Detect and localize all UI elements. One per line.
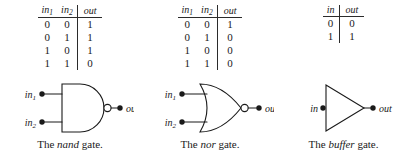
column-header-in: in xyxy=(323,5,339,17)
cell-out: 1 xyxy=(77,18,102,32)
nor-gate-icon: in1 in2 out xyxy=(146,80,274,136)
gate-panel-nand: in1 in2 out 0 0 1 0 1 1 xyxy=(0,0,140,157)
gate-symbol-wrapper-nand: in1 in2 out xyxy=(0,80,140,136)
column-header-in2: in2 xyxy=(197,5,217,18)
cell-out: 0 xyxy=(217,44,242,57)
truth-table-nand: in1 in2 out 0 0 1 0 1 1 xyxy=(38,5,103,70)
table-row: 0 0 1 xyxy=(38,18,103,32)
cell-in1: 0 xyxy=(38,18,58,32)
cell-in2: 1 xyxy=(197,57,217,70)
table-row: 0 1 1 xyxy=(38,31,103,44)
table-row: 1 1 0 xyxy=(38,57,103,70)
table-header-row: in1 in2 out xyxy=(38,5,103,18)
truth-table-wrapper-buffer: in out 0 0 1 1 xyxy=(280,5,407,43)
truth-table-buffer: in out 0 0 1 1 xyxy=(323,5,365,43)
table-row: 1 1 0 xyxy=(178,57,243,70)
output-label: out xyxy=(379,103,392,114)
cell-in2: 0 xyxy=(57,44,77,57)
input-terminal-dot xyxy=(320,105,325,110)
input-terminal-dot-2 xyxy=(179,119,184,124)
caption-nor: The nor gate. xyxy=(140,138,280,150)
cell-in2: 0 xyxy=(197,18,217,32)
table-row: 1 1 xyxy=(323,30,365,43)
table-header-row: in1 in2 out xyxy=(178,5,243,18)
input-label-2: in2 xyxy=(25,117,37,130)
column-header-in2: in2 xyxy=(57,5,77,18)
cell-out: 0 xyxy=(217,31,242,44)
cell-out: 1 xyxy=(217,18,242,32)
nand-gate-icon: in1 in2 out xyxy=(6,80,134,136)
cell-in1: 1 xyxy=(178,44,198,57)
input-label-1: in1 xyxy=(25,89,36,102)
cell-in1: 0 xyxy=(178,31,198,44)
input-terminal-dot-2 xyxy=(39,119,44,124)
cell-out: 1 xyxy=(77,44,102,57)
gate-panel-buffer: in out 0 0 1 1 xyxy=(280,0,407,157)
output-terminal-dot xyxy=(256,105,261,110)
table-header-row: in out xyxy=(323,5,365,17)
cell-out: 0 xyxy=(217,57,242,70)
gate-symbol-wrapper-buffer: in out xyxy=(280,80,407,136)
column-header-in1: in1 xyxy=(38,5,58,18)
truth-table-wrapper-nand: in1 in2 out 0 0 1 0 1 1 xyxy=(0,5,140,70)
output-terminal-dot xyxy=(117,105,122,110)
cell-in2: 1 xyxy=(57,31,77,44)
cell-in1: 1 xyxy=(38,57,58,70)
cell-out: 0 xyxy=(339,17,364,31)
truth-table-nor: in1 in2 out 0 0 1 0 1 0 xyxy=(178,5,243,70)
input-terminal-dot-1 xyxy=(39,91,44,96)
cell-in2: 1 xyxy=(197,31,217,44)
table-row: 1 0 1 xyxy=(38,44,103,57)
gate-symbol-wrapper-nor: in1 in2 out xyxy=(140,80,280,136)
input-label: in xyxy=(310,103,318,114)
output-terminal-dot xyxy=(370,105,375,110)
column-header-in1: in1 xyxy=(178,5,198,18)
caption-buffer: The buffer gate. xyxy=(280,138,407,150)
column-header-out: out xyxy=(339,5,364,17)
caption-nand: The nand gate. xyxy=(0,138,140,150)
inversion-bubble-icon xyxy=(104,104,111,111)
truth-table-wrapper-nor: in1 in2 out 0 0 1 0 1 0 xyxy=(140,5,280,70)
table-row: 0 0 xyxy=(323,17,365,31)
logic-gates-figure: in1 in2 out 0 0 1 0 1 1 xyxy=(0,0,407,157)
inversion-bubble-icon xyxy=(241,104,248,111)
cell-in2: 0 xyxy=(57,18,77,32)
cell-in2: 1 xyxy=(57,57,77,70)
input-label-2: in2 xyxy=(165,117,177,130)
nor-body xyxy=(200,84,241,132)
output-label: out xyxy=(126,103,134,114)
cell-out: 1 xyxy=(339,30,364,43)
cell-in1: 1 xyxy=(178,57,198,70)
cell-out: 1 xyxy=(77,31,102,44)
nand-body xyxy=(62,84,104,132)
cell-in1: 0 xyxy=(38,31,58,44)
table-row: 0 0 1 xyxy=(178,18,243,32)
input-terminal-dot-1 xyxy=(179,91,184,96)
gate-panel-nor: in1 in2 out 0 0 1 0 1 0 xyxy=(140,0,280,157)
buffer-body xyxy=(326,85,364,131)
cell-in: 1 xyxy=(323,30,339,43)
input-label-1: in1 xyxy=(165,89,176,102)
table-row: 0 1 0 xyxy=(178,31,243,44)
output-label: out xyxy=(265,103,274,114)
column-header-out: out xyxy=(77,5,102,18)
column-header-out: out xyxy=(217,5,242,18)
table-row: 1 0 0 xyxy=(178,44,243,57)
cell-out: 0 xyxy=(77,57,102,70)
cell-in2: 0 xyxy=(197,44,217,57)
cell-in1: 1 xyxy=(38,44,58,57)
cell-in1: 0 xyxy=(178,18,198,32)
cell-in: 0 xyxy=(323,17,339,31)
buffer-gate-icon: in out xyxy=(284,80,404,136)
